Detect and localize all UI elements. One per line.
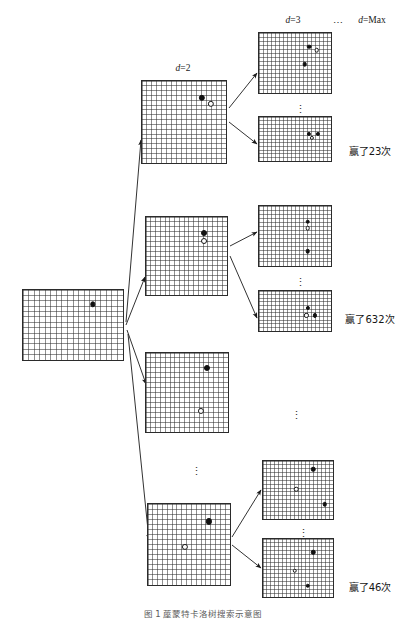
figure-caption: 图 1 蓙蒙特卡洛树搜索示意图 — [0, 610, 406, 619]
depth-label-dmax: d=Max — [358, 16, 386, 26]
black-stone — [311, 550, 316, 555]
depth2-board — [145, 216, 228, 296]
board-grid — [259, 291, 331, 331]
board-grid — [142, 81, 226, 163]
tree-edge-d2b-to-d3b — [230, 232, 257, 246]
depthmax-board — [258, 116, 332, 162]
board-grid — [146, 217, 227, 295]
depth3-board — [262, 460, 334, 520]
vertical-ellipsis-icon: ⋮ — [295, 277, 306, 288]
white-stone — [294, 487, 299, 492]
tree-edge-d2d-to-dmaxc — [232, 545, 261, 568]
depth2-board — [147, 503, 231, 586]
board-grid — [259, 33, 331, 93]
depth-value: =2 — [180, 63, 190, 73]
tree-edge-d2d-to-d3c — [232, 490, 261, 537]
black-stone — [306, 219, 311, 224]
white-stone — [292, 569, 297, 574]
depth-label-d3: d=3 — [286, 16, 301, 26]
depthmax-board — [258, 290, 332, 332]
tree-edge-d2a-to-dmaxa — [229, 122, 257, 144]
black-stone — [323, 502, 328, 507]
depthmax-board — [262, 538, 334, 598]
board-grid — [146, 353, 228, 432]
black-stone — [305, 584, 310, 589]
depth-value: =Max — [363, 15, 386, 25]
vertical-ellipsis-icon: ⋮ — [298, 528, 309, 539]
depth3-board — [258, 32, 332, 94]
depth-value: =3 — [290, 15, 300, 25]
win-count-label: 赢了632次 — [345, 315, 394, 325]
black-stone — [311, 467, 316, 472]
level-ellipsis-icon: ⋯ — [333, 18, 343, 28]
tree-edge-root-to-d2c — [127, 330, 146, 384]
board-grid — [259, 206, 331, 266]
tree-edge-d2a-to-d3a — [229, 73, 257, 108]
board-grid — [148, 504, 230, 585]
root-board — [22, 289, 124, 361]
depth2-board — [145, 352, 229, 433]
tree-edge-d2b-to-dmaxb — [230, 256, 257, 318]
black-stone — [306, 249, 311, 254]
depth2-board — [141, 80, 227, 164]
vertical-ellipsis-icon: ⋮ — [191, 466, 202, 477]
tree-edge-root-to-d2a — [126, 140, 141, 322]
vertical-ellipsis-icon: ⋮ — [291, 410, 302, 421]
depth3-board — [258, 205, 332, 267]
black-stone — [201, 230, 207, 236]
win-count-label: 赢了46次 — [349, 583, 392, 593]
mcts-tree-diagram: d=2d=3d=Max ⋯ ⋮⋮⋮⋮⋮ 赢了23次赢了632次赢了46次 图 1… — [0, 0, 406, 622]
board-grid — [23, 290, 123, 360]
win-count-label: 赢了23次 — [349, 147, 392, 157]
depth-label-d2: d=2 — [176, 64, 191, 74]
board-grid — [263, 539, 333, 597]
white-stone — [314, 48, 319, 53]
black-stone — [307, 44, 312, 49]
black-stone — [303, 62, 308, 67]
white-stone — [201, 238, 207, 244]
tree-edge-root-to-d2b — [126, 277, 145, 325]
vertical-ellipsis-icon: ⋮ — [295, 104, 306, 115]
board-grid — [259, 117, 331, 161]
white-stone — [306, 226, 311, 231]
